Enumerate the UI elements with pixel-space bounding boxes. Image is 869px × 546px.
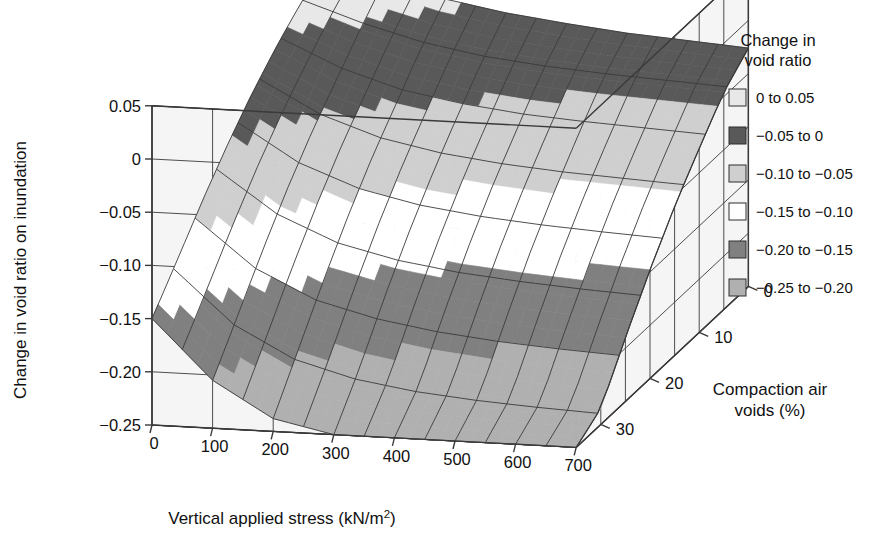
y-tick-label: 10 [714,328,732,346]
x-tick-label: 200 [261,440,289,458]
x-tick-mark [453,441,455,449]
z-tick-label: 0.05 [109,97,141,115]
legend-swatch [729,241,746,258]
legend-swatch [729,203,746,220]
x-axis-title: Vertical applied stress (kN/m2) [168,508,395,528]
x-tick-mark [271,431,273,439]
x-tick-label: 400 [383,447,411,465]
x-tick-mark [332,435,334,443]
legend-swatch [729,127,746,144]
x-tick-mark [514,444,516,452]
y-tick-label: 20 [665,374,683,392]
legend-item[interactable]: 0 to 0.05 [729,89,814,106]
y-tick-mark [650,378,659,382]
y-axis-title-line2: voids (%) [735,401,806,420]
legend-label: −0.25 to −0.20 [756,279,853,296]
legend-label: −0.20 to −0.15 [756,241,853,258]
z-tick-label: −0.20 [99,363,141,381]
x-tick-label: 600 [504,453,532,471]
legend-title-line2: void ratio [745,51,812,69]
x-tick-mark [574,447,576,455]
legend-swatch [729,89,746,106]
legend-swatch [729,165,746,182]
legend-title-line1: Change in [740,31,815,49]
x-tick-label: 300 [322,444,350,462]
y-tick-mark [601,424,610,428]
x-tick-mark [211,428,213,436]
surface-mesh [152,0,748,447]
legend-label: −0.15 to −0.10 [756,203,853,220]
x-tick-label: 100 [201,437,229,455]
z-tick-label: −0.05 [99,203,141,221]
z-tick-label: 0 [132,150,141,168]
x-tick-label: 700 [564,456,592,474]
y-tick-label: 30 [616,420,634,438]
legend-label: 0 to 0.05 [756,89,814,106]
x-tick-mark [392,438,394,446]
z-tick-label: −0.10 [99,256,141,274]
chart-canvas: 0.050−0.05−0.10−0.15−0.20−0.250100200300… [0,0,869,546]
z-axis-title: Change in void ratio on inundation [11,141,30,399]
legend-item[interactable]: −0.05 to 0 [729,127,823,144]
surface-chart-3d: 0.050−0.05−0.10−0.15−0.20−0.250100200300… [0,0,869,546]
y-axis-title-line1: Compaction air [713,380,828,399]
x-tick-label: 500 [443,450,471,468]
legend-label: −0.05 to 0 [756,127,823,144]
z-tick-label: −0.25 [99,416,141,434]
y-tick-mark [699,332,708,336]
legend-label: −0.10 to −0.05 [756,165,853,182]
legend-swatch [729,279,746,296]
x-tick-label: 0 [149,434,158,452]
x-tick-mark [150,425,152,433]
z-tick-label: −0.15 [99,310,141,328]
